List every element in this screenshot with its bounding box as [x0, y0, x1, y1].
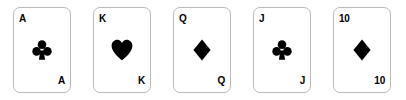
playing-card[interactable]: A A — [13, 7, 71, 93]
card-rank-bottom-right: A — [58, 76, 65, 86]
card-rank-bottom-right: J — [300, 76, 305, 86]
club-suit-icon — [269, 37, 295, 63]
card-rank-bottom-right: K — [138, 76, 145, 86]
card-rank-top-left: 10 — [339, 14, 350, 24]
playing-card-hand: A A K K Q — [0, 0, 406, 100]
diamond-suit-icon — [349, 37, 375, 63]
card-rank-bottom-right: 10 — [374, 76, 385, 86]
playing-card[interactable]: K K — [93, 7, 151, 93]
playing-card[interactable]: 10 10 — [333, 7, 391, 93]
card-rank-bottom-right: Q — [217, 76, 225, 86]
playing-card[interactable]: Q Q — [173, 7, 231, 93]
heart-suit-icon — [109, 37, 135, 63]
card-rank-top-left: A — [19, 14, 26, 24]
card-rank-top-left: K — [99, 14, 106, 24]
card-rank-top-left: J — [259, 14, 264, 24]
club-suit-icon — [29, 37, 55, 63]
playing-card[interactable]: J J — [253, 7, 311, 93]
card-rank-top-left: Q — [179, 14, 187, 24]
diamond-suit-icon — [189, 37, 215, 63]
